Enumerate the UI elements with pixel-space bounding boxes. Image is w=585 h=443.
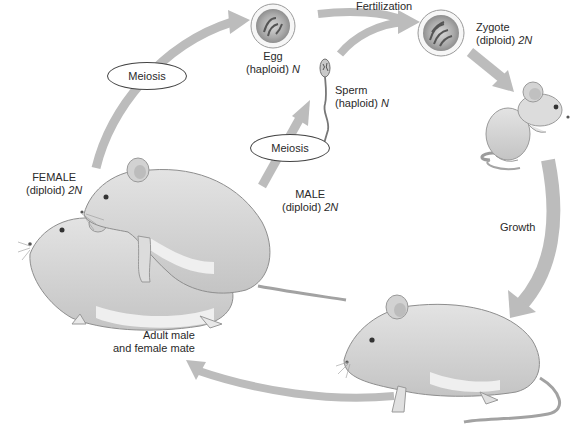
mouse-life-cycle-diagram: Fertilization Egg (haploid) N Sperm (hap… bbox=[0, 0, 585, 443]
meiosis-male-oval: Meiosis bbox=[250, 134, 330, 162]
meiosis-male-label: Meiosis bbox=[271, 142, 308, 154]
sperm-ploidy: (haploid) N bbox=[335, 97, 389, 110]
male-name: MALE bbox=[282, 188, 338, 201]
mate-line1: Adult male bbox=[113, 329, 195, 342]
zygote-label: Zygote (diploid) 2N bbox=[476, 21, 532, 47]
egg-ploidy: (haploid) N bbox=[246, 63, 300, 76]
mate-label: Adult male and female mate bbox=[113, 329, 195, 355]
sperm-name: Sperm bbox=[335, 84, 389, 97]
fertilization-label: Fertilization bbox=[356, 0, 412, 13]
meiosis-female-oval: Meiosis bbox=[107, 62, 187, 90]
arrow-fertilization bbox=[318, 10, 420, 54]
female-ploidy: (diploid) 2N bbox=[26, 184, 82, 197]
male-label: MALE (diploid) 2N bbox=[282, 188, 338, 214]
zygote-ploidy: (diploid) 2N bbox=[476, 34, 532, 47]
sperm-illustration bbox=[320, 59, 330, 146]
arrow-growth bbox=[508, 160, 553, 318]
egg-cell-illustration bbox=[251, 4, 295, 48]
arrow-zygote-to-juvenile bbox=[470, 52, 514, 92]
sperm-label: Sperm (haploid) N bbox=[335, 84, 389, 110]
male-ploidy: (diploid) 2N bbox=[282, 201, 338, 214]
zygote-name: Zygote bbox=[476, 21, 532, 34]
meiosis-female-label: Meiosis bbox=[128, 70, 165, 82]
growth-label: Growth bbox=[500, 221, 535, 234]
arrow-female-to-egg bbox=[96, 10, 250, 168]
zygote-illustration bbox=[418, 10, 464, 56]
female-label: FEMALE (diploid) 2N bbox=[26, 171, 82, 197]
mate-line2: and female mate bbox=[113, 342, 195, 355]
egg-name: Egg bbox=[246, 50, 300, 63]
egg-label: Egg (haploid) N bbox=[246, 50, 300, 76]
juvenile-mouse-illustration bbox=[482, 82, 570, 169]
female-name: FEMALE bbox=[26, 171, 82, 184]
